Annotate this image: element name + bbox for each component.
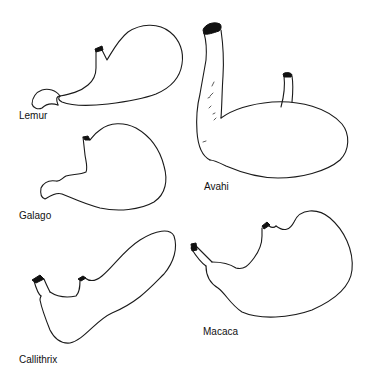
- avahi-esophagus-cap-icon: [283, 73, 292, 77]
- lemur-stomach-drawing: [32, 25, 183, 109]
- label-galago: Galago: [19, 211, 51, 221]
- galago-stomach-drawing: [41, 124, 166, 210]
- label-avahi: Avahi: [204, 182, 229, 192]
- macaca-pylorus-cap-icon: [191, 243, 197, 251]
- macaca-stomach-drawing: [191, 211, 352, 317]
- callithrix-stomach-drawing: [32, 231, 176, 343]
- label-macaca: Macaca: [203, 327, 238, 337]
- avahi-stomach-drawing: [197, 23, 348, 178]
- callithrix-duodenum-cap-icon: [32, 275, 44, 283]
- label-callithrix: Callithrix: [19, 355, 57, 365]
- galago-esophagus-cap-icon: [83, 136, 90, 140]
- stomach-comparison-diagram: [0, 0, 370, 377]
- label-lemur: Lemur: [19, 111, 47, 121]
- avahi-tube-opening-icon: [203, 23, 221, 34]
- lemur-esophagus-cap-icon: [95, 46, 103, 52]
